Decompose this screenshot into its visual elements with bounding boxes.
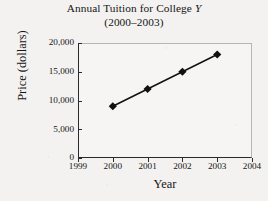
chart-title-italic-token: Y (195, 2, 201, 14)
y-axis-tick-labels: 05,00010,00015,00020,000 (26, 43, 74, 158)
chart-figure: Annual Tuition for College Y (2000–2003)… (0, 0, 268, 201)
y-tick-label: 20,000 (28, 38, 74, 47)
chart-title: Annual Tuition for College Y (0, 1, 268, 16)
x-tick-mark (182, 158, 183, 162)
chart-subtitle: (2000–2003) (0, 15, 268, 30)
x-tick-label: 2004 (232, 162, 268, 171)
x-tick-mark (252, 158, 253, 162)
y-tick-label: 10,000 (28, 96, 74, 105)
y-tick-label: 15,000 (28, 67, 74, 76)
x-tick-mark (78, 158, 79, 162)
y-tick-mark (78, 72, 82, 73)
x-axis-title: Year (78, 177, 252, 192)
y-tick-label: 5,000 (28, 125, 74, 134)
x-tick-mark (148, 158, 149, 162)
y-tick-mark (78, 43, 82, 44)
y-tick-mark (78, 129, 82, 130)
chart-title-text: Annual Tuition for College (67, 2, 195, 14)
y-tick-mark (78, 101, 82, 102)
x-tick-mark (113, 158, 114, 162)
x-tick-mark (217, 158, 218, 162)
plot-area (78, 43, 252, 158)
